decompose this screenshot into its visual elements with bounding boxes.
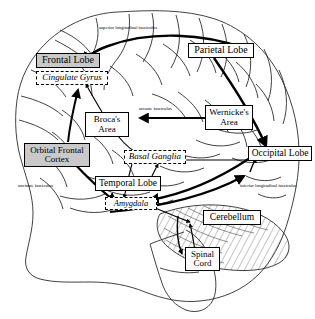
node-occipital-lobe-label: Occipital Lobe — [252, 149, 309, 159]
node-parietal-lobe[interactable]: Parietal Lobe — [188, 43, 254, 58]
arrow-parietal-to-occipital — [214, 58, 266, 146]
node-cingulate-gyrus[interactable]: Cingulate Gyrus — [36, 71, 108, 85]
node-amygdala[interactable]: Amygdala — [105, 197, 157, 210]
node-wernickes-area[interactable]: Wernicke's Area — [205, 105, 253, 130]
arrow-temporal-to-basal-ganglia — [152, 164, 158, 176]
node-basal-ganglia[interactable]: Basal Ganglia — [124, 150, 186, 164]
label-superior-longitudinal-fasciculus: superior longitudinal fasciculus — [99, 26, 157, 31]
node-orbital-frontal-cortex-label-line2: Cortex — [45, 155, 70, 164]
node-frontal-lobe[interactable]: Frontal Lobe — [36, 53, 100, 68]
node-orbital-frontal-cortex[interactable]: Orbital Frontal Cortex — [24, 143, 90, 167]
node-temporal-lobe-label: Temporal Lobe — [99, 179, 157, 189]
node-occipital-lobe[interactable]: Occipital Lobe — [248, 146, 312, 161]
node-basal-ganglia-label: Basal Ganglia — [129, 152, 181, 161]
node-cerebellum[interactable]: Cerebellum — [203, 210, 261, 225]
node-cerebellum-label: Cerebellum — [210, 213, 254, 223]
brain-diagram: Frontal Lobe Cingulate Gyrus Orbital Fro… — [0, 0, 315, 319]
label-inferior-longitudinal-fasciculus-text-line2: fasciculus — [278, 183, 296, 188]
node-brocas-area[interactable]: Broca's Area — [85, 112, 129, 137]
label-inferior-longitudinal-fasciculus: inferior longitudinal fasciculus — [240, 184, 297, 189]
label-uncinate-fasciculus-text: uncinate fasciculus — [18, 183, 53, 188]
label-arcuate-fasciculus-text: arcuate fasciculus — [139, 106, 172, 111]
arrow-brocas-to-cingulate — [86, 84, 102, 112]
label-uncinate-fasciculus: uncinate fasciculus — [18, 184, 53, 189]
label-superior-longitudinal-fasciculus-text: superior longitudinal fasciculus — [99, 25, 157, 30]
node-wernickes-area-label-line2: Area — [220, 118, 238, 127]
node-temporal-lobe[interactable]: Temporal Lobe — [95, 176, 161, 191]
node-brocas-area-label-line2: Area — [98, 125, 116, 134]
node-spinal-cord-label-line2: Cord — [194, 259, 212, 268]
node-amygdala-label: Amygdala — [114, 199, 148, 208]
node-cingulate-gyrus-label: Cingulate Gyrus — [42, 73, 102, 82]
node-frontal-lobe-label: Frontal Lobe — [42, 55, 94, 65]
node-spinal-cord[interactable]: Spinal Cord — [185, 247, 220, 271]
label-arcuate-fasciculus: arcuate fasciculus — [139, 107, 172, 112]
node-parietal-lobe-label: Parietal Lobe — [194, 45, 248, 55]
label-inferior-longitudinal-fasciculus-text-line1: inferior longitudinal — [240, 183, 277, 188]
